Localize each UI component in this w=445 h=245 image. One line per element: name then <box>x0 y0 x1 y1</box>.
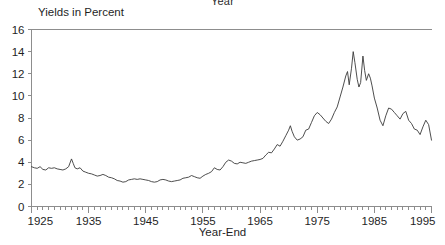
y-tick-label: 14 <box>12 46 25 58</box>
y-tick-label: 10 <box>12 90 25 102</box>
series-line-yields <box>32 52 432 183</box>
plot-area: 0246810121416 19251935194519551965197519… <box>0 0 445 245</box>
x-tick-label: 1975 <box>304 215 330 227</box>
y-tick-label: 6 <box>18 134 24 146</box>
x-tick-label: 1955 <box>190 215 216 227</box>
axes <box>32 30 432 207</box>
chart-figure: Year Yields in Percent 0246810121416 192… <box>0 0 445 245</box>
y-tick-label: 2 <box>18 178 24 190</box>
x-tick-label: 1925 <box>28 215 54 227</box>
y-axis-tick-labels: 0246810121416 <box>12 24 25 213</box>
y-tick-label: 0 <box>18 201 24 213</box>
y-tick-label: 16 <box>12 24 25 36</box>
x-tick-label: 1945 <box>133 215 159 227</box>
x-tick-label: 1995 <box>410 215 436 227</box>
x-tick-label: 1985 <box>362 215 388 227</box>
y-tick-label: 12 <box>12 68 25 80</box>
x-tick-label: 1935 <box>76 215 102 227</box>
x-axis-ticks <box>32 207 432 213</box>
y-tick-label: 8 <box>18 112 24 124</box>
data-series-yields <box>32 52 432 183</box>
x-axis-tick-labels: 19251935194519551965197519851995 <box>28 215 436 227</box>
y-axis-ticks <box>28 30 32 207</box>
x-axis-label: Year-End <box>0 226 445 238</box>
y-tick-label: 4 <box>18 156 25 168</box>
x-tick-label: 1965 <box>247 215 273 227</box>
